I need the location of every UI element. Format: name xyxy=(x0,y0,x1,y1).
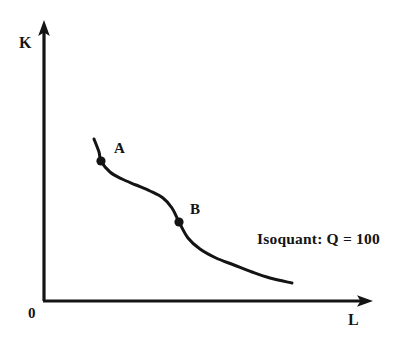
x-axis xyxy=(43,295,373,307)
origin-label: 0 xyxy=(28,306,36,321)
point-a-label: A xyxy=(114,141,125,156)
point-b-label: B xyxy=(190,202,200,217)
marker-point-b xyxy=(174,217,183,226)
isoquant-annotation-label: Isoquant: Q = 100 xyxy=(257,231,380,247)
y-axis-label: K xyxy=(19,35,31,51)
isoquant-chart-svg xyxy=(0,0,414,347)
y-axis xyxy=(38,20,50,301)
isoquant-figure: K L 0 A B Isoquant: Q = 100 xyxy=(0,0,414,347)
marker-point-a xyxy=(96,156,105,165)
x-axis-label: L xyxy=(348,312,359,328)
